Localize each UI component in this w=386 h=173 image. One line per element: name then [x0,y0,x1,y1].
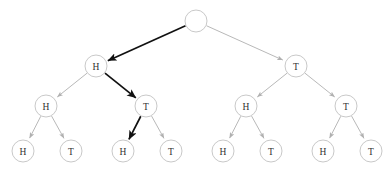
tree-node[interactable]: H [312,140,334,162]
node-label: H [43,102,50,112]
probability-tree-diagram: HTHTHTHTHTHTHT [0,0,386,173]
node-label: T [343,102,349,112]
tree-edge [152,116,164,138]
node-label: H [320,147,327,157]
tree-edge [252,116,264,138]
node-label: T [168,147,174,157]
tree-node[interactable]: T [135,95,157,117]
node-label: T [68,147,74,157]
tree-edge [330,116,341,138]
node-label: H [220,147,227,157]
tree-node[interactable] [185,10,207,32]
tree-edge [305,73,335,97]
tree-node[interactable]: H [85,55,107,77]
tree-edge [230,116,241,138]
tree-node[interactable]: T [160,140,182,162]
tree-edge [30,116,41,138]
tree-edge [206,26,282,60]
node-label: T [143,102,149,112]
tree-node[interactable]: T [60,140,82,162]
tree-edge [57,73,87,97]
edges-group [30,26,364,140]
node-label: H [120,147,127,157]
tree-edge [52,116,64,138]
tree-node[interactable]: T [335,95,357,117]
tree-canvas: HTHTHTHTHTHTHT [0,0,386,173]
tree-node[interactable]: H [112,140,134,162]
tree-edge [129,116,141,139]
tree-node[interactable]: T [260,140,282,162]
tree-edge [257,73,287,97]
node-label: H [93,62,100,72]
node-label: T [368,147,374,157]
node-label: H [20,147,27,157]
tree-node[interactable]: T [360,140,382,162]
node-circle [185,10,207,32]
tree-node[interactable]: H [212,140,234,162]
tree-node[interactable]: H [12,140,34,162]
tree-node[interactable]: H [235,95,257,117]
tree-node[interactable]: H [35,95,57,117]
tree-node[interactable]: T [285,55,307,77]
node-label: H [243,102,250,112]
tree-edge [105,73,136,98]
nodes-group: HTHTHTHTHTHTHT [12,10,382,162]
node-label: T [293,62,299,72]
tree-edge [352,116,364,138]
node-label: T [268,147,274,157]
tree-edge [108,26,186,61]
